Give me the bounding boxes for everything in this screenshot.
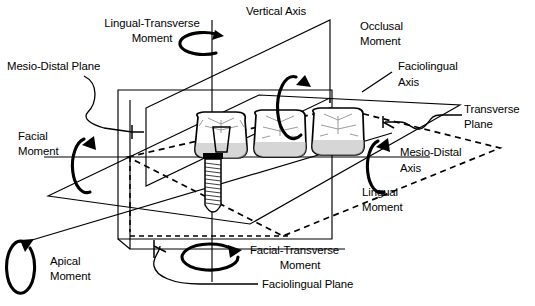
label-facial-moment-line2: Moment — [18, 145, 59, 157]
diagram-canvas: Vertical Axis Lingual-Transverse Moment … — [0, 0, 535, 306]
label-lingual-transverse-moment-line1: Lingual-Transverse — [104, 17, 199, 29]
label-facial-transverse-moment-line1: Facial-Transverse — [250, 244, 339, 256]
label-occlusal-moment-line1: Occlusal — [360, 20, 403, 32]
implant-biomechanics-diagram: Vertical Axis Lingual-Transverse Moment … — [0, 0, 535, 306]
label-transverse-plane-line1: Transverse — [464, 103, 520, 115]
crown-tooth-3 — [312, 108, 364, 155]
label-vertical-axis: Vertical Axis — [246, 5, 307, 17]
label-faciolingual-axis-line1: Faciolingual — [398, 60, 458, 72]
label-mesio-distal-plane: Mesio-Distal Plane — [7, 60, 100, 72]
label-transverse-plane-line2: Plane — [464, 118, 493, 130]
faciolingual-plane-leader — [154, 240, 258, 284]
label-apical-moment-line1: Apical — [50, 255, 80, 267]
lingual-transverse-moment-arrow — [180, 30, 224, 55]
faciolingual-axis-leader — [362, 72, 392, 92]
label-facial-transverse-moment-line2: Moment — [280, 259, 321, 271]
implant-fixture — [203, 153, 223, 212]
mesio-distal-plane-leader — [84, 76, 144, 139]
label-lingual-transverse-moment-line2: Moment — [132, 32, 173, 44]
label-lingual-moment-line2: Moment — [362, 201, 403, 213]
lingual-moment-arrow — [367, 138, 390, 193]
label-mesio-distal-axis-line1: Mesio-Distal — [400, 146, 461, 158]
label-facial-moment-line1: Facial — [18, 130, 48, 142]
label-faciolingual-plane: Faciolingual Plane — [262, 278, 353, 290]
facial-moment-arrow — [72, 136, 96, 193]
label-lingual-moment-line1: Lingual — [362, 186, 398, 198]
label-apical-moment-line2: Moment — [50, 270, 91, 282]
apical-moment-arrow — [7, 239, 35, 293]
crown-tooth-1 — [195, 112, 247, 158]
label-mesio-distal-axis-line2: Axis — [400, 162, 422, 174]
label-faciolingual-axis-line2: Axis — [398, 76, 420, 88]
mesio-distal-plane-shape — [146, 20, 330, 186]
transverse-plane-leader — [383, 115, 462, 129]
crown-tooth-2 — [254, 110, 306, 157]
label-occlusal-moment-line2: Moment — [360, 35, 401, 47]
